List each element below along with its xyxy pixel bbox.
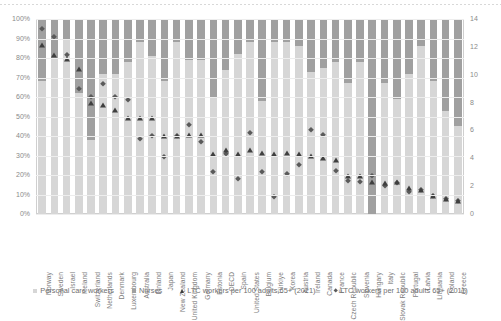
triangle-marker-icon (100, 103, 106, 108)
x-axis-category-labels: NorwaySwedenIsraelIcelandSwitzerlandNeth… (36, 216, 464, 274)
gridline (36, 136, 464, 137)
y-tick-left: 40% (16, 132, 30, 140)
y-tick-left: 50% (16, 113, 30, 121)
marker-ltc-2021 (223, 147, 229, 152)
y-tick-right: 0 (470, 210, 474, 218)
marker-ltc-2011 (40, 27, 44, 31)
y-tick-left: 70% (16, 74, 30, 82)
y-axis-right: 02468101214 (466, 0, 500, 228)
triangle-marker-icon (418, 188, 424, 193)
chart-legend: Personal care workersNursesLTC workers p… (0, 286, 501, 295)
legend-label: Personal care workers (40, 286, 114, 295)
y-tick-right: 12 (470, 43, 478, 51)
x-axis-label: Slovak Republic (399, 272, 406, 321)
y-tick-left: 0% (20, 210, 30, 218)
legend-label: Nurses (139, 286, 162, 295)
marker-ltc-2021 (455, 199, 461, 204)
marker-ltc-2021 (88, 100, 94, 105)
gridline (36, 58, 464, 59)
marker-ltc-2021 (443, 196, 449, 201)
triangle-marker-icon (259, 150, 265, 155)
x-axis-label: Italy (387, 272, 394, 285)
y-tick-right: 10 (470, 71, 478, 79)
triangle-marker-icon (320, 156, 326, 161)
diamond-marker-icon (308, 127, 314, 133)
legend-item[interactable]: LTC workers per 100 adults 65+ (2021) (180, 286, 315, 295)
marker-ltc-2011 (77, 86, 81, 90)
triangle-marker-icon (443, 196, 449, 201)
legend-swatch-nurses (132, 289, 136, 293)
marker-ltc-2011 (236, 177, 240, 181)
marker-ltc-2021 (406, 185, 412, 190)
marker-ltc-2011 (248, 131, 252, 135)
y-tick-left: 90% (16, 35, 30, 43)
marker-ltc-2021 (112, 107, 118, 112)
marker-ltc-2011 (333, 169, 337, 173)
marker-ltc-2021 (247, 147, 253, 152)
marker-ltc-2011 (199, 139, 203, 143)
legend-label: LTC workers per 100 adults 65+ (2021) (187, 286, 315, 295)
gridline (36, 78, 464, 79)
marker-ltc-2021 (320, 156, 326, 161)
marker-ltc-2011 (138, 137, 142, 141)
triangle-marker-icon (406, 185, 412, 190)
diamond-marker-icon (235, 176, 241, 182)
triangle-marker-icon (112, 107, 118, 112)
marker-ltc-2011 (187, 123, 191, 127)
y-tick-left: 80% (16, 54, 30, 62)
triangle-marker-icon (284, 150, 290, 155)
gridline (36, 175, 464, 176)
gridline (36, 19, 464, 20)
x-axis-label: Czech Republic (350, 272, 357, 320)
y-tick-right: 8 (470, 99, 474, 107)
marker-ltc-2011 (126, 98, 130, 102)
gridline (36, 214, 464, 215)
triangle-marker-icon (382, 181, 388, 186)
gridline (36, 195, 464, 196)
marker-ltc-2021 (284, 150, 290, 155)
legend-diamond-marker-icon (333, 288, 338, 293)
diamond-marker-icon (357, 179, 363, 185)
gridline (36, 39, 464, 40)
marker-ltc-2021 (394, 179, 400, 184)
triangle-marker-icon (333, 157, 339, 162)
marker-ltc-2021 (259, 150, 265, 155)
legend-item[interactable]: Personal care workers (33, 286, 114, 295)
marker-ltc-2021 (369, 179, 375, 184)
y-tick-right: 2 (470, 182, 474, 190)
triangle-marker-icon (247, 147, 253, 152)
marker-ltc-2011 (211, 170, 215, 174)
marker-ltc-2011 (101, 82, 105, 86)
triangle-marker-icon (39, 43, 45, 48)
marker-ltc-2011 (407, 190, 411, 194)
diamond-marker-icon (332, 168, 338, 174)
marker-ltc-2011 (346, 178, 350, 182)
gridline (36, 117, 464, 118)
diamond-marker-icon (100, 81, 106, 87)
diamond-marker-icon (186, 122, 192, 128)
y-axis-left: 0%10%20%30%40%50%60%70%80%90%100% (0, 0, 32, 228)
marker-ltc-2021 (382, 181, 388, 186)
marker-ltc-2011 (309, 128, 313, 132)
diamond-marker-icon (39, 26, 45, 32)
diamond-marker-icon (76, 86, 82, 92)
marker-ltc-2011 (272, 195, 276, 199)
y-tick-left: 10% (16, 191, 30, 199)
gridline (36, 156, 464, 157)
marker-ltc-2021 (39, 43, 45, 48)
legend-item[interactable]: LTC workers per 100 adults 65+ (2011) (334, 286, 468, 295)
legend-label: LTC workers per 100 adults 65+ (2011) (340, 286, 468, 295)
plot-area (36, 19, 464, 214)
marker-ltc-2011 (297, 163, 301, 167)
y-tick-left: 60% (16, 93, 30, 101)
y-tick-right: 14 (470, 15, 478, 23)
triangle-marker-icon (223, 147, 229, 152)
marker-ltc-2011 (358, 180, 362, 184)
legend-item[interactable]: Nurses (132, 286, 162, 295)
diamond-marker-icon (296, 162, 302, 168)
marker-ltc-2021 (76, 67, 82, 72)
triangle-marker-icon (369, 179, 375, 184)
marker-ltc-2011 (260, 170, 264, 174)
gridline (36, 97, 464, 98)
